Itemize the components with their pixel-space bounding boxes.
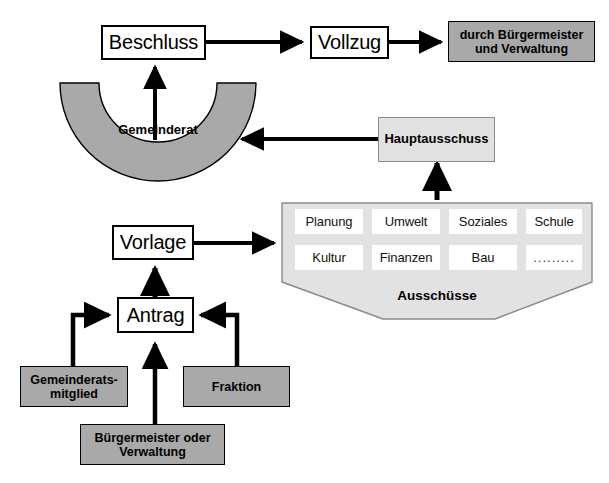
chip-umwelt[interactable]: Umwelt (372, 209, 440, 234)
node-fraktion-label: Fraktion (212, 380, 261, 394)
node-fraktion[interactable]: Fraktion (183, 366, 290, 407)
chip-placeholder-dots-label: ......... (533, 250, 575, 265)
chip-kultur-label: Kultur (312, 250, 345, 265)
node-beschluss-label: Beschluss (109, 31, 198, 53)
chip-kultur[interactable]: Kultur (295, 245, 363, 270)
node-vollzug-label: Vollzug (318, 31, 381, 53)
chip-bau[interactable]: Bau (449, 245, 517, 270)
chip-schule-label: Schule (534, 214, 573, 229)
chip-planung[interactable]: Planung (295, 209, 363, 234)
node-gemeinderatsmitglied[interactable]: Gemeinderats- mitglied (20, 366, 128, 407)
node-buergermeister-line2: Verwaltung (119, 445, 186, 459)
node-vorlage-label: Vorlage (120, 231, 186, 253)
node-gemeinderatsmitglied-line1: Gemeinderats- (30, 373, 118, 387)
node-buergermeister-line1: Bürgermeister oder (94, 431, 210, 445)
chip-soziales-label: Soziales (459, 214, 507, 229)
chip-finanzen-label: Finanzen (380, 250, 433, 265)
node-durch-buergermeister-und-verwaltung[interactable]: durch Bürgermeister und Verwaltung (448, 21, 595, 62)
node-beschluss[interactable]: Beschluss (101, 25, 206, 60)
chip-planung-label: Planung (305, 214, 352, 229)
node-vollzug[interactable]: Vollzug (310, 26, 389, 59)
node-buergermeister-oder-verwaltung[interactable]: Bürgermeister oder Verwaltung (80, 424, 225, 465)
chip-finanzen[interactable]: Finanzen (372, 245, 440, 270)
node-durch-buergermeister-line1: durch Bürgermeister (460, 28, 584, 42)
node-vorlage[interactable]: Vorlage (112, 225, 194, 260)
chip-soziales[interactable]: Soziales (449, 209, 517, 234)
chip-placeholder-dots[interactable]: ......... (526, 245, 582, 270)
node-hauptausschuss[interactable]: Hauptausschuss (378, 117, 495, 162)
flowchart-diagram: Beschluss Vollzug durch Bürgermeister un… (0, 0, 609, 483)
node-gemeinderat-label: Gemeinderat (60, 122, 256, 137)
node-hauptausschuss-label: Hauptausschuss (384, 132, 488, 147)
chip-umwelt-label: Umwelt (385, 214, 428, 229)
node-ausschuesse-label: Ausschüsse (282, 288, 592, 303)
node-durch-buergermeister-line2: und Verwaltung (475, 42, 568, 56)
shape-layer (0, 0, 609, 483)
node-antrag[interactable]: Antrag (117, 297, 194, 333)
node-antrag-label: Antrag (127, 304, 185, 326)
chip-bau-label: Bau (472, 250, 495, 265)
chip-schule[interactable]: Schule (526, 209, 582, 234)
node-gemeinderatsmitglied-line2: mitglied (50, 387, 98, 401)
